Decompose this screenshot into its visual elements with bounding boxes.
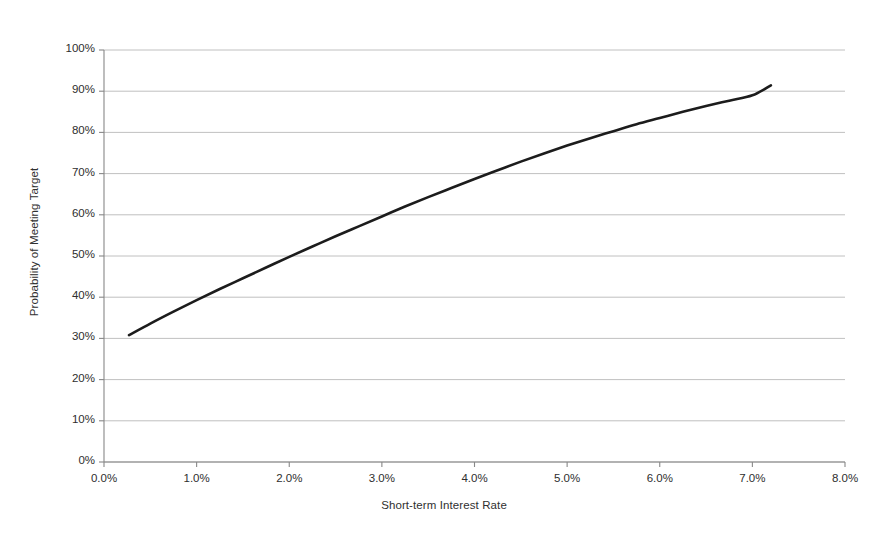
x-tick-label: 0.0% (69, 472, 139, 484)
y-tick-label: 50% (35, 248, 95, 260)
chart-container: 0%10%20%30%40%50%60%70%80%90%100% 0.0%1.… (0, 0, 888, 537)
x-tick-label: 4.0% (440, 472, 510, 484)
y-tick-label: 40% (35, 289, 95, 301)
y-tick-label: 60% (35, 207, 95, 219)
x-tick-label: 5.0% (532, 472, 602, 484)
x-tick-label: 7.0% (717, 472, 787, 484)
y-tick-label: 10% (35, 413, 95, 425)
tick-marks-group (99, 50, 845, 467)
x-tick-label: 8.0% (810, 472, 880, 484)
gridlines-group (104, 50, 845, 462)
y-tick-label: 70% (35, 166, 95, 178)
x-tick-label: 6.0% (625, 472, 695, 484)
y-axis-title: Probability of Meeting Target (28, 122, 40, 362)
chart-plot-area (0, 0, 888, 537)
x-tick-label: 1.0% (162, 472, 232, 484)
y-tick-label: 30% (35, 330, 95, 342)
y-tick-label: 0% (35, 454, 95, 466)
x-tick-label: 2.0% (254, 472, 324, 484)
y-tick-label: 90% (35, 83, 95, 95)
x-tick-label: 3.0% (347, 472, 417, 484)
x-axis-title: Short-term Interest Rate (0, 499, 888, 511)
y-tick-label: 100% (35, 42, 95, 54)
y-tick-label: 20% (35, 372, 95, 384)
y-tick-label: 80% (35, 124, 95, 136)
